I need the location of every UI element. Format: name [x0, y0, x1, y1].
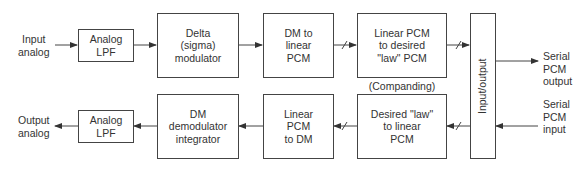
analog-lpf-output-block: Analog LPF [78, 110, 134, 143]
output-analog-label: Output analog [18, 114, 50, 139]
delta-sigma-modulator-block: Delta (sigma) modulator [157, 13, 239, 78]
input-analog-label: Input analog [18, 33, 50, 58]
serial-pcm-output-label: Serial PCM output [543, 50, 572, 88]
law-to-linear-pcm-block: Desired "law" to linear PCM [357, 94, 447, 159]
linear-pcm-to-dm-block: Linear PCM to DM [263, 94, 334, 159]
linear-to-law-pcm-block: Linear PCM to desired "law" PCM [357, 13, 447, 78]
companding-label: (Companding) [362, 80, 442, 93]
input-output-label: Input/output [477, 58, 490, 113]
serial-pcm-input-label: Serial PCM input [543, 98, 570, 136]
input-output-block: Input/output [470, 13, 496, 159]
dm-to-linear-pcm-block: DM to linear PCM [263, 13, 334, 78]
analog-lpf-input-block: Analog LPF [78, 29, 134, 62]
dm-demodulator-integrator-block: DM demodulator integrator [157, 94, 239, 159]
